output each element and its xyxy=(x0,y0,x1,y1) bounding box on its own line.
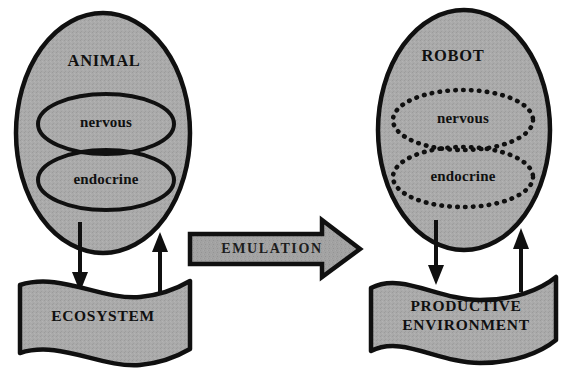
robot-label: ROBOT xyxy=(421,46,484,65)
animal-endocrine-label: endocrine xyxy=(73,171,138,187)
productive-environment-label-line2: ENVIRONMENT xyxy=(402,316,529,333)
robot-group: ROBOT nervous endocrine PRODUCTIVE ENVIR… xyxy=(371,10,556,363)
environment-to-robot-arrow xyxy=(513,228,529,292)
robot-endocrine-label: endocrine xyxy=(430,168,495,184)
productive-environment-label-line1: PRODUCTIVE xyxy=(410,297,521,314)
ecosystem-label: ECOSYSTEM xyxy=(51,307,155,324)
robot-nervous-label: nervous xyxy=(437,110,489,126)
diagram-root: ANIMAL nervous endocrine ECOSYSTEM xyxy=(0,0,578,375)
diagram-canvas: ANIMAL nervous endocrine ECOSYSTEM xyxy=(0,0,578,375)
animal-label: ANIMAL xyxy=(68,51,141,70)
emulation-label: EMULATION xyxy=(221,241,322,256)
animal-group: ANIMAL nervous endocrine ECOSYSTEM xyxy=(16,13,190,365)
animal-nervous-label: nervous xyxy=(80,114,132,130)
ecosystem-to-animal-arrow xyxy=(152,232,168,295)
emulation-arrow-group: EMULATION xyxy=(190,220,360,277)
